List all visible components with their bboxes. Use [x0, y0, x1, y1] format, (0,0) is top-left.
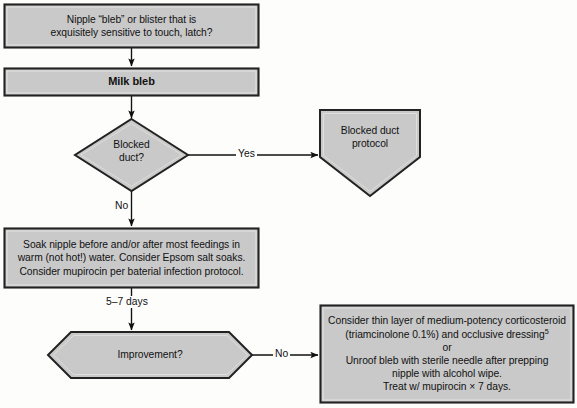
protocol-line-1: Blocked duct — [341, 125, 399, 136]
protocol-line-2: protocol — [352, 138, 388, 149]
edge-label-yes: Yes — [236, 148, 257, 160]
treatment-line-1: Consider thin layer of medium-potency co… — [328, 315, 566, 326]
treatment-box-label: Consider thin layer of medium-potency co… — [324, 307, 570, 401]
treatment-line-3: or — [442, 342, 451, 353]
start-box-label: Nipple “bleb” or blister that is exquisi… — [10, 6, 253, 46]
blocked-duct-protocol-label: Blocked duct protocol — [322, 122, 418, 152]
start-box-line-2: exquisitely sensitive to touch, latch? — [51, 27, 213, 38]
improvement-line-1: Improvement? — [60, 348, 240, 361]
treatment-superscript: 5 — [545, 326, 549, 335]
treatment-line-2: (triamcinolone 0.1%) and occlusive dress… — [345, 329, 544, 340]
treatment-line-5: nipple with alcohol wipe. — [392, 368, 502, 379]
start-box-line-1: Nipple “bleb” or blister that is — [67, 14, 196, 25]
treatment-line-6: Treat w/ mupirocin × 7 days. — [383, 381, 511, 392]
blocked-duct-line-2: duct? — [119, 152, 144, 163]
soak-line-3: Consider mupirocin per baterial infectio… — [19, 266, 243, 277]
treatment-line-4: Unroof bleb with sterile needle after pr… — [346, 355, 549, 366]
blocked-duct-label: Blocked duct? — [91, 136, 172, 166]
soak-line-2: warm (not hot!) water. Consider Epsom sa… — [18, 252, 246, 263]
blocked-duct-line-1: Blocked — [113, 139, 149, 150]
soak-box-label: Soak nipple before and/or after most fee… — [9, 230, 254, 286]
edge-label-5-7-days: 5–7 days — [104, 296, 150, 308]
milk-bleb-label: Milk bleb — [10, 69, 253, 95]
flowchart-canvas: Nipple “bleb” or blister that is exquisi… — [0, 0, 577, 408]
improvement-label: Improvement? — [60, 333, 240, 377]
edge-label-no-improvement: No — [273, 348, 290, 360]
edge-label-no-blocked-duct: No — [113, 200, 130, 212]
soak-line-1: Soak nipple before and/or after most fee… — [23, 239, 240, 250]
milk-bleb-line-1: Milk bleb — [10, 75, 253, 88]
